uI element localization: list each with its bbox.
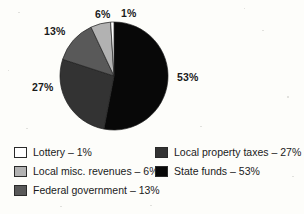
legend-item[interactable]: Local misc. revenues – 6%: [14, 162, 159, 181]
slice-label-state-funds: 53%: [177, 72, 198, 83]
legend-column-left: Lottery – 1%Local misc. revenues – 6%Fed…: [14, 143, 159, 200]
legend-item[interactable]: Federal government – 13%: [14, 181, 159, 200]
legend-swatch: [14, 166, 27, 177]
legend-swatch: [14, 147, 27, 158]
legend-item[interactable]: State funds – 53%: [155, 162, 300, 181]
chart-legend: Lottery – 1%Local misc. revenues – 6%Fed…: [0, 143, 304, 214]
legend-swatch: [155, 147, 168, 158]
legend-item-label: Federal government – 13%: [33, 185, 160, 196]
slice-label-local-property-taxes: 27%: [32, 82, 53, 93]
legend-swatch: [14, 185, 27, 196]
legend-item-label: Lottery – 1%: [33, 147, 92, 158]
slice-label-federal-government: 13%: [44, 26, 65, 37]
pie-slice-group: [60, 22, 168, 130]
legend-item[interactable]: Local property taxes – 27%: [155, 143, 300, 162]
legend-item-label: Local misc. revenues – 6%: [33, 166, 158, 177]
legend-swatch: [155, 166, 168, 177]
pie-chart-svg: [59, 21, 169, 131]
pie-chart-figure: 1% 6% 13% 27% 53% Lottery – 1%Local misc…: [0, 0, 304, 214]
slice-label-local-misc-revenues: 6%: [95, 9, 110, 20]
slice-label-lottery: 1%: [121, 8, 136, 19]
legend-item-label: State funds – 53%: [174, 166, 260, 177]
legend-item[interactable]: Lottery – 1%: [14, 143, 159, 162]
legend-column-right: Local property taxes – 27%State funds – …: [155, 143, 300, 181]
pie-chart-plot-area: 1% 6% 13% 27% 53%: [0, 0, 304, 140]
legend-item-label: Local property taxes – 27%: [174, 147, 301, 158]
